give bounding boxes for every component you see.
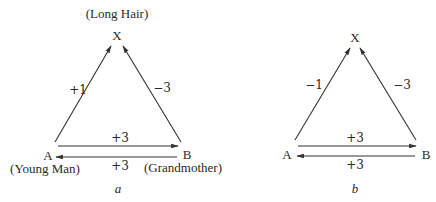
edge-a-to-x-label: +1 — [69, 83, 87, 97]
edge-a-to-b-label: +3 — [346, 131, 364, 145]
caption-b: b — [352, 181, 359, 196]
node-b-name: (Grandmother) — [144, 160, 222, 175]
diagram-a: (Long Hair) X +1 −3 +3 +3 A (Young Man) … — [10, 6, 222, 196]
node-a-label: A — [282, 147, 292, 162]
caption-a: a — [115, 181, 122, 196]
edge-b-to-x-label: −3 — [153, 81, 171, 95]
diagram-b: X −1 −3 +3 +3 A B b — [282, 30, 430, 196]
node-x-label: X — [112, 28, 122, 43]
node-x-name: (Long Hair) — [86, 6, 148, 21]
edge-b-to-x — [123, 46, 181, 142]
edge-a-to-b-label: +3 — [111, 131, 129, 145]
edge-b-to-a-label: +3 — [346, 158, 364, 172]
edge-b-to-x-label: −3 — [393, 78, 411, 92]
edge-b-to-a-label: +3 — [111, 159, 129, 173]
balance-diagrams: (Long Hair) X +1 −3 +3 +3 A (Young Man) … — [0, 0, 436, 202]
edge-b-to-x — [360, 48, 416, 140]
node-b-label: B — [422, 147, 431, 162]
edge-a-to-x — [295, 48, 350, 140]
edge-a-to-x-label: −1 — [305, 78, 323, 92]
node-x-label: X — [350, 30, 360, 45]
node-a-name: (Young Man) — [10, 161, 80, 176]
